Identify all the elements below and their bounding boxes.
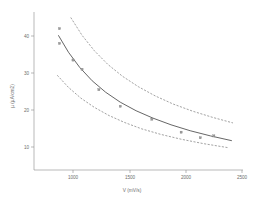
y-tick-label-20: 20 bbox=[24, 108, 30, 113]
chart-figure: 40 30 20 10 1000 1500 2000 2500 V (mV/s)… bbox=[0, 0, 259, 202]
x-tick-label-1500: 1500 bbox=[125, 175, 136, 180]
data-point bbox=[199, 137, 201, 139]
data-point-group bbox=[58, 28, 215, 139]
x-axis-title: V (mV/s) bbox=[123, 188, 142, 193]
scatter-plot-canvas: 40 30 20 10 1000 1500 2000 2500 V (mV/s)… bbox=[0, 0, 259, 202]
axis-group bbox=[34, 12, 243, 170]
data-point bbox=[81, 68, 83, 70]
y-tick-label-30: 30 bbox=[24, 71, 30, 76]
y-tick-label-10: 10 bbox=[24, 145, 30, 150]
x-tick-label-2000: 2000 bbox=[181, 175, 192, 180]
band-segment bbox=[71, 18, 233, 123]
y-tick-label-40: 40 bbox=[24, 34, 30, 39]
band-segment bbox=[57, 75, 228, 148]
data-point bbox=[98, 89, 100, 91]
data-point bbox=[72, 59, 74, 61]
data-point bbox=[58, 42, 60, 44]
data-point bbox=[151, 118, 153, 120]
x-tick-label-2500: 2500 bbox=[237, 175, 248, 180]
y-tick-group: 40 30 20 10 bbox=[24, 34, 34, 150]
fitted-curve bbox=[58, 35, 232, 140]
lower-confidence-band bbox=[57, 75, 228, 148]
y-axis-title: µ (µA/cm2) bbox=[10, 84, 15, 108]
upper-confidence-band bbox=[71, 18, 233, 123]
data-point bbox=[58, 28, 60, 30]
x-tick-group: 1000 1500 2000 2500 bbox=[68, 170, 248, 180]
data-point bbox=[180, 131, 182, 133]
fit-segment bbox=[58, 35, 232, 140]
x-tick-label-1000: 1000 bbox=[68, 175, 79, 180]
data-point bbox=[119, 105, 121, 107]
data-point bbox=[213, 135, 215, 137]
